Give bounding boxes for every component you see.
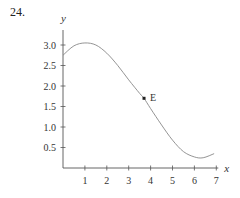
x-tick-label: 2 (104, 175, 109, 186)
x-axis-label: x (223, 162, 229, 174)
y-tick-label: 2.5 (44, 60, 57, 71)
annotations: E (143, 92, 157, 103)
x-tick-label: 3 (126, 175, 131, 186)
x-tick-label: 7 (214, 175, 219, 186)
y-tick-label: 2.0 (44, 81, 57, 92)
ticks: 12345670.51.01.52.02.53.0 (44, 40, 219, 187)
x-tick-label: 4 (148, 175, 153, 186)
x-tick-label: 5 (170, 175, 175, 186)
point-marker (143, 97, 146, 100)
point-label: E (150, 92, 156, 103)
y-tick-label: 3.0 (44, 40, 57, 51)
y-tick-label: 1.0 (44, 122, 57, 133)
y-tick-label: 1.5 (44, 101, 57, 112)
y-tick-label: 0.5 (44, 142, 57, 153)
x-tick-label: 6 (192, 175, 197, 186)
chart: yx 12345670.51.01.52.02.53.0 E (0, 0, 240, 198)
axes: yx (60, 12, 229, 174)
data-curve (63, 43, 214, 158)
x-tick-label: 1 (82, 175, 87, 186)
y-axis-label: y (60, 12, 66, 24)
